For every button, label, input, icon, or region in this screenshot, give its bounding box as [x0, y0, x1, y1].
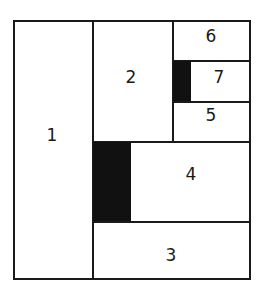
- shaded-block-4: [93, 142, 131, 221]
- region-1: [13, 20, 94, 280]
- region-4-label: 4: [186, 166, 197, 183]
- region-3-label: 3: [166, 247, 177, 264]
- shaded-block-7: [173, 61, 191, 102]
- region-5-label: 5: [206, 107, 217, 124]
- region-6-label: 6: [206, 28, 217, 45]
- region-7-label: 7: [214, 69, 225, 86]
- region-2-label: 2: [126, 69, 137, 86]
- region-1-label: 1: [47, 127, 58, 144]
